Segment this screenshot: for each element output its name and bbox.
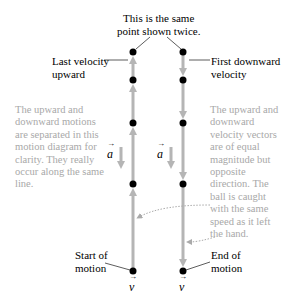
title-line-2: point shown twice. xyxy=(117,25,200,38)
title-annotation: This is the same point shown twice. xyxy=(117,12,200,38)
acceleration-symbol-left: →a xyxy=(107,147,113,162)
separation-note: The upward and downward motions are sepa… xyxy=(15,104,104,191)
title-line-1: This is the same xyxy=(117,12,200,25)
velocity-symbol-left: →v xyxy=(129,280,134,295)
velocity-magnitude-note: The upward and downward velocity vectors… xyxy=(210,104,278,240)
last-velocity-upward-label: Last velocity upward xyxy=(52,55,109,81)
acceleration-arrows xyxy=(121,147,171,165)
end-of-motion-label: End of motion xyxy=(211,249,242,275)
first-downward-velocity-label: First downward velocity xyxy=(211,55,280,81)
velocity-symbol-right: →v xyxy=(179,280,184,295)
start-of-motion-label: Start of motion xyxy=(75,249,108,275)
acceleration-symbol-right: →a xyxy=(157,147,163,162)
dotted-pointers xyxy=(139,205,215,242)
